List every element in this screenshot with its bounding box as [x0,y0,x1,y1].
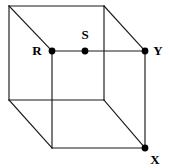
edge-connector-top-left [9,6,52,51]
point-r-dot [49,48,56,55]
point-label-s: S [81,27,88,42]
cube-diagram: R S Y X [0,0,169,168]
edge-connector-top-right [104,6,145,51]
point-label-r: R [32,43,42,58]
point-x-dot [142,145,149,152]
point-y-dot [142,48,149,55]
point-label-x: X [150,152,160,167]
point-label-y: Y [153,43,163,58]
edge-connector-bottom-left [9,100,52,148]
point-s-dot [82,48,89,55]
edge-connector-bottom-right [104,100,145,148]
cube-svg-canvas: R S Y X [0,0,169,168]
